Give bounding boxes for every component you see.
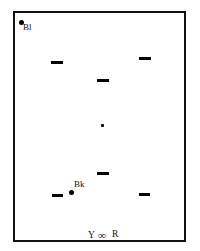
dash-marker (97, 172, 109, 175)
axis-note-infinity: ∞ (98, 230, 105, 240)
dash-marker (52, 194, 63, 197)
axis-note-y: Y (88, 230, 95, 240)
dash-marker (97, 79, 109, 82)
point-label-bl: Bl (23, 23, 32, 32)
axis-note-r: R (112, 229, 118, 239)
dash-marker (139, 193, 150, 196)
dash-marker (139, 57, 151, 60)
plot-marks-layer: Bl Bk Y ∞ R (0, 0, 200, 251)
dash-marker (51, 61, 63, 64)
point-label-bk: Bk (74, 180, 85, 189)
dot-marker-bk (69, 190, 74, 195)
figure-container: Bl Bk Y ∞ R (0, 0, 200, 251)
dot-marker-center (101, 124, 104, 127)
